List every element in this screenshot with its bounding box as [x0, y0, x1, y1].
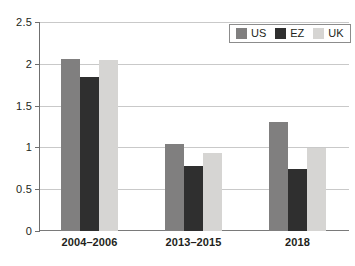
x-tick-label-2004-2006: 2004–2006	[49, 236, 130, 249]
bar-chart: 2.5 2 1.5 1 0.5 0 2004–2006 2013–2015 20…	[0, 0, 355, 266]
legend: US EZ UK	[229, 24, 351, 43]
y-tick-label-1.5: 1.5	[2, 101, 32, 112]
legend-label-uk: UK	[328, 28, 343, 39]
bar-uk-2018	[307, 148, 326, 231]
bar-uk-2004-2006	[99, 60, 118, 231]
bar-uk-2013-2015	[203, 153, 222, 231]
y-tick-label-2.5: 2.5	[2, 17, 32, 28]
legend-entry-uk: UK	[313, 28, 343, 39]
y-tick-label-0: 0	[2, 226, 32, 237]
plot-area	[39, 22, 349, 231]
y-tick-label-2: 2	[2, 59, 32, 70]
legend-label-ez: EZ	[290, 28, 304, 39]
bar-us-2004-2006	[61, 59, 80, 231]
bar-us-2018	[269, 122, 288, 231]
legend-swatch-us-icon	[236, 28, 247, 39]
bar-group-2018	[269, 22, 326, 231]
legend-swatch-uk-icon	[313, 28, 324, 39]
y-tick-mark-0	[35, 231, 39, 232]
y-tick-mark-1	[35, 147, 39, 148]
legend-entry-ez: EZ	[275, 28, 304, 39]
y-tick-label-1: 1	[2, 142, 32, 153]
bar-ez-2013-2015	[184, 166, 203, 231]
y-tick-mark-0.5	[35, 189, 39, 190]
y-axis-labels: 2.5 2 1.5 1 0.5 0	[0, 0, 32, 266]
bar-ez-2018	[288, 169, 307, 231]
x-axis-labels: 2004–2006 2013–2015 2018	[39, 236, 349, 256]
y-tick-mark-2.5	[35, 22, 39, 23]
bar-group-2004-2006	[61, 22, 118, 231]
y-tick-label-0.5: 0.5	[2, 184, 32, 195]
bar-us-2013-2015	[165, 144, 184, 231]
y-axis-spine	[39, 22, 40, 232]
legend-label-us: US	[251, 28, 266, 39]
x-tick-label-2018: 2018	[257, 236, 338, 249]
legend-entry-us: US	[236, 28, 266, 39]
x-tick-label-2013-2015: 2013–2015	[153, 236, 234, 249]
y-tick-mark-1.5	[35, 106, 39, 107]
y-tick-mark-2	[35, 64, 39, 65]
bar-ez-2004-2006	[80, 77, 99, 231]
legend-swatch-ez-icon	[275, 28, 286, 39]
bar-group-2013-2015	[165, 22, 222, 231]
